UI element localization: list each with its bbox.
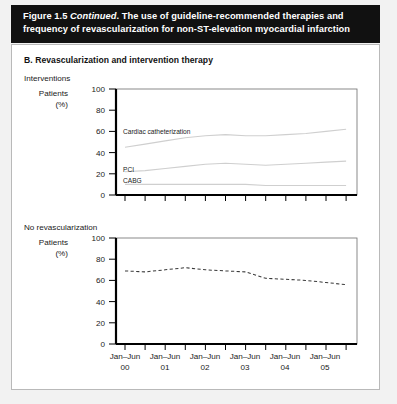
x-label-5-line1: Jan–Jun — [310, 352, 341, 363]
x-label-5-line2: 05 — [310, 363, 341, 374]
x-label-3: Jan–Jun 03 — [230, 352, 261, 373]
x-label-5: Jan–Jun 05 — [310, 352, 341, 373]
x-label-4-line2: 04 — [270, 363, 301, 374]
panel-a-axis-name-line1: Patients — [16, 89, 68, 98]
y-tick-a-1: 80 — [96, 106, 106, 115]
chart-interventions-svg: 100 80 60 40 20 0 — [70, 83, 370, 208]
section-heading: B. Revascularization and intervention th… — [24, 55, 213, 65]
y-tick-labels-b: 100 80 60 40 20 0 — [91, 234, 105, 349]
figure-page: Figure 1.5 Continued. The use of guideli… — [0, 0, 397, 404]
chart-interventions: 100 80 60 40 20 0 — [70, 83, 370, 208]
x-label-2-line2: 02 — [190, 363, 221, 374]
y-tick-b-3: 40 — [96, 298, 106, 307]
x-label-2-line1: Jan–Jun — [190, 352, 221, 363]
x-label-1: Jan–Jun 01 — [150, 352, 181, 373]
x-label-3-line1: Jan–Jun — [230, 352, 261, 363]
y-tick-a-4: 20 — [96, 170, 106, 179]
panel-b-title: No revascularization — [24, 223, 97, 232]
panel-a-axis-name-line2: (%) — [16, 100, 68, 109]
y-tick-b-1: 80 — [96, 255, 106, 264]
y-tick-labels-a: 100 80 60 40 20 0 — [91, 85, 105, 200]
figure-content-panel: B. Revascularization and intervention th… — [11, 44, 380, 390]
x-label-0-line1: Jan–Jun — [110, 352, 141, 363]
plot-frame-a — [116, 89, 357, 195]
y-tick-a-5: 0 — [100, 191, 105, 200]
x-label-0: Jan–Jun 00 — [110, 352, 141, 373]
series-label-pci: PCI — [123, 166, 134, 173]
x-label-2: Jan–Jun 02 — [190, 352, 221, 373]
plot-frame-b — [116, 238, 357, 344]
y-tick-b-4: 20 — [96, 319, 106, 328]
x-label-0-line2: 00 — [110, 363, 141, 374]
chart-no-revascularization-svg: 100 80 60 40 20 0 — [70, 232, 370, 357]
figure-title-continued: Continued — [70, 11, 116, 21]
chart-no-revascularization: 100 80 60 40 20 0 — [70, 232, 370, 357]
x-label-1-line2: 01 — [150, 363, 181, 374]
y-tick-b-0: 100 — [91, 234, 105, 243]
x-label-4: Jan–Jun 04 — [270, 352, 301, 373]
y-tick-b-2: 60 — [96, 276, 106, 285]
panel-a-title: Interventions — [24, 74, 70, 83]
y-tick-a-2: 60 — [96, 127, 106, 136]
x-label-1-line1: Jan–Jun — [150, 352, 181, 363]
figure-title-banner: Figure 1.5 Continued. The use of guideli… — [11, 5, 380, 43]
y-tick-b-5: 0 — [100, 340, 105, 349]
x-label-3-line2: 03 — [230, 363, 261, 374]
y-tick-a-0: 100 — [91, 85, 105, 94]
series-label-cardiac-catheterization: Cardiac catheterization — [123, 128, 191, 135]
figure-title-prefix: Figure 1.5 — [23, 11, 70, 21]
panel-b-axis-name-line1: Patients — [16, 238, 68, 247]
panel-b-axis-name-line2: (%) — [16, 249, 68, 258]
y-tick-a-3: 40 — [96, 149, 106, 158]
series-label-cabg: CABG — [123, 177, 142, 184]
x-label-4-line1: Jan–Jun — [270, 352, 301, 363]
